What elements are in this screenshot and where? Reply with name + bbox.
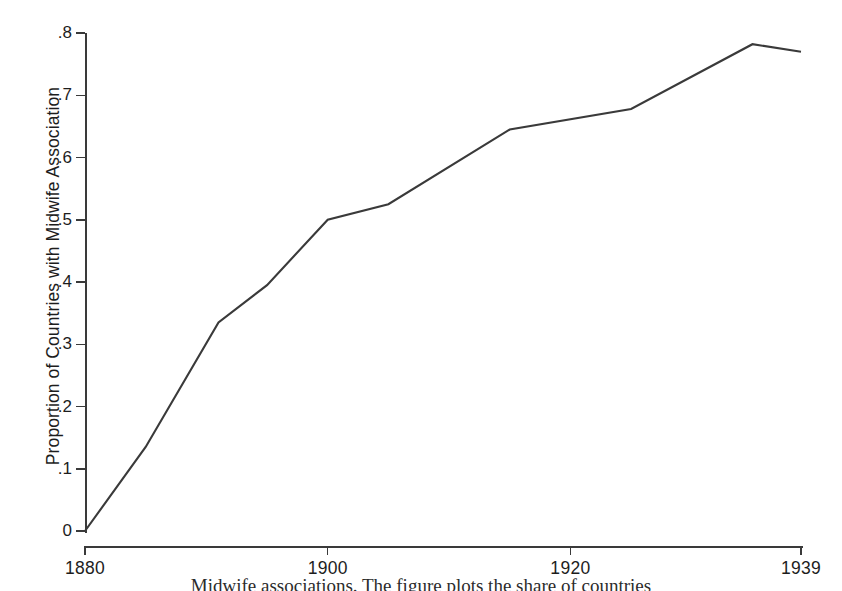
data-line-midwife-association: [85, 44, 801, 531]
y-tick-label-p5: .5: [2, 210, 72, 230]
y-tick-p8: [76, 32, 85, 34]
y-tick-label-wrap: .4: [0, 272, 72, 292]
y-tick-label-wrap: .7: [0, 85, 72, 105]
y-tick-p7: [76, 95, 85, 97]
plot-area: [0, 0, 842, 591]
figure-caption-partial: Midwife associations. The figure plots t…: [0, 574, 842, 591]
y-tick-label-wrap: .8: [0, 23, 72, 43]
y-tick-label-p8: .8: [2, 23, 72, 43]
x-tick-1900: [327, 546, 329, 555]
y-tick-label-p4: .4: [2, 272, 72, 292]
y-tick-label-p2: .2: [2, 397, 72, 417]
x-tick-1880: [84, 546, 86, 555]
y-tick-label-wrap: .6: [0, 148, 72, 168]
y-axis-line: [85, 33, 87, 533]
y-tick-p6: [76, 157, 85, 159]
y-tick-p5: [76, 219, 85, 221]
y-tick-label-p7: .7: [2, 85, 72, 105]
y-tick-0: [76, 530, 85, 532]
x-axis-line: [85, 546, 803, 548]
x-tick-1920: [570, 546, 572, 555]
y-tick-label-wrap: .1: [0, 459, 72, 479]
y-tick-p4: [76, 281, 85, 283]
y-tick-label-wrap: .3: [0, 334, 72, 354]
y-tick-label-p3: .3: [2, 334, 72, 354]
y-tick-label-p6: .6: [2, 148, 72, 168]
y-tick-p1: [76, 468, 85, 470]
x-tick-1939: [800, 546, 802, 555]
chart-figure: Proportion of Countries with Midwife Ass…: [0, 0, 842, 591]
y-tick-p2: [76, 406, 85, 408]
y-tick-label-p1: .1: [2, 459, 72, 479]
y-tick-p3: [76, 344, 85, 346]
y-tick-label-wrap: 0: [0, 521, 72, 541]
y-tick-label-wrap: .2: [0, 397, 72, 417]
y-tick-label-0: 0: [2, 521, 72, 541]
y-tick-label-wrap: .5: [0, 210, 72, 230]
